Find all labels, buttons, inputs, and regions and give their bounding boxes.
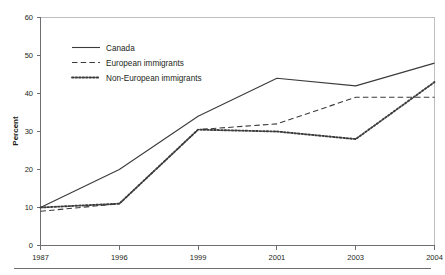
x-tick-label-2004: 2004 [426,253,443,262]
series-line-european-immigrants [41,97,435,211]
y-tick-label-30: 30 [25,127,33,136]
y-tick-label-40: 40 [25,89,33,98]
y-tick-marks [37,18,41,246]
x-tick-label-2001: 2001 [269,253,286,262]
plot-axes [41,18,435,246]
footer-divider [14,268,431,269]
chart-legend: Canada European immigrants Non-European … [72,44,202,83]
line-chart: 0 10 20 30 40 50 60 Percent 1987 1996 19… [0,0,445,275]
y-tick-label-20: 20 [25,165,33,174]
x-tick-label-1996: 1996 [111,253,128,262]
data-series-group [41,63,435,211]
y-tick-label-60: 60 [25,13,33,22]
chart-figure: 0 10 20 30 40 50 60 Percent 1987 1996 19… [0,0,445,275]
series-line-non-european-immigrants [41,82,435,207]
legend-label-non-european-immigrants: Non-European immigrants [106,74,202,83]
legend-label-european-immigrants: European immigrants [106,59,184,68]
x-tick-label-2003: 2003 [347,253,364,262]
plot-frame [41,18,435,246]
y-axis-title: Percent [11,116,20,146]
x-tick-label-1987: 1987 [32,253,49,262]
y-tick-label-50: 50 [25,51,33,60]
x-tick-label-1999: 1999 [190,253,207,262]
x-tick-marks [41,246,435,250]
y-tick-label-0: 0 [29,241,33,250]
y-tick-label-10: 10 [25,203,33,212]
legend-label-canada: Canada [106,44,135,53]
series-line-canada [41,63,435,207]
